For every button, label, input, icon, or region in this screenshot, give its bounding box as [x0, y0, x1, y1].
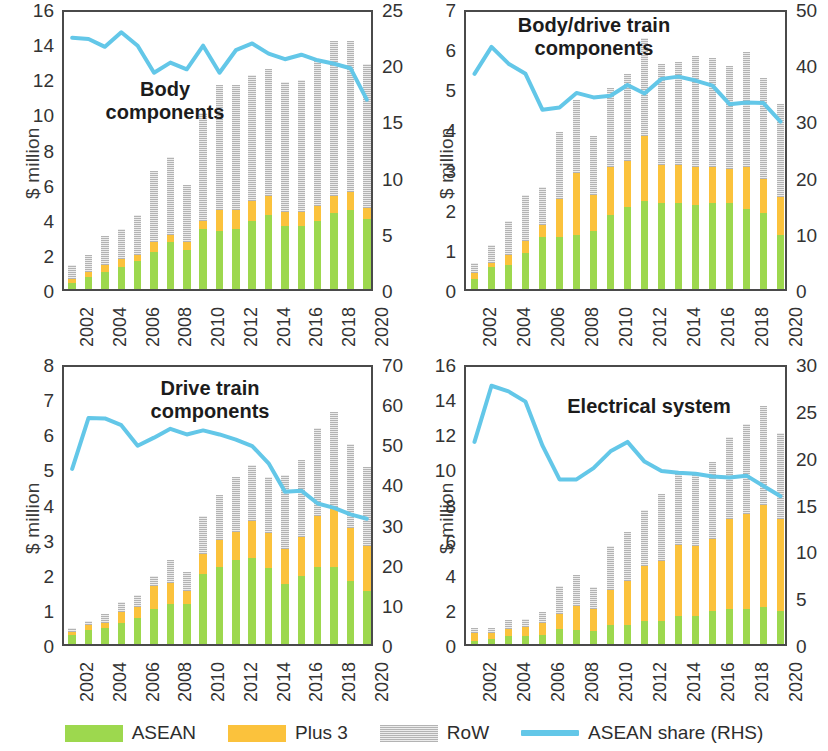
y-tick-label: 6 [0, 426, 54, 445]
line-series-layer [64, 12, 375, 293]
x-tick-label: 2016 [719, 662, 737, 702]
legend-color-swatch-plus3 [228, 725, 286, 742]
x-tick-label: 2012 [242, 307, 260, 347]
y2-tick-label: 15 [382, 113, 403, 132]
x-tick-label: 2018 [753, 662, 771, 702]
y-tick-label: 8 [0, 356, 54, 375]
figure-root: $ million0246810121416051015202520022004… [0, 0, 828, 751]
legend-item-asean[interactable]: ASEAN [65, 722, 196, 744]
y2-tick-label: 20 [796, 169, 817, 188]
y2-tick-label: 60 [382, 396, 403, 415]
x-tick-label: 2006 [549, 307, 567, 347]
y2-tick-label: 10 [382, 169, 403, 188]
y-tick-label: 6 [414, 41, 456, 60]
y-tick-label: 0 [0, 637, 54, 656]
y-tick-label: 16 [414, 356, 456, 375]
y-tick-label: 3 [414, 161, 456, 180]
y-tick-label: 5 [414, 81, 456, 100]
y-tick-label: 10 [0, 106, 54, 125]
y2-tick-label: 25 [382, 1, 403, 20]
x-tick-label: 2010 [209, 307, 227, 347]
y2-tick-label: 30 [796, 356, 817, 375]
x-tick-label: 2016 [307, 307, 325, 347]
chart-title: Body/drive train components [479, 14, 709, 60]
y-tick-label: 2 [414, 601, 456, 620]
y-tick-label: 1 [0, 601, 54, 620]
y2-tick-label: 40 [382, 476, 403, 495]
y2-tick-label: 30 [382, 516, 403, 535]
y-tick-label: 0 [414, 282, 456, 301]
y-tick-label: 6 [414, 531, 456, 550]
y-tick-label: 2 [414, 201, 456, 220]
legend-item-line[interactable]: ASEAN share (RHS) [521, 722, 763, 744]
chart-title: Electrical system [534, 395, 764, 418]
y-tick-label: 5 [0, 461, 54, 480]
legend-color-swatch-row [380, 725, 438, 742]
y-tick-label: 7 [0, 391, 54, 410]
legend-item-row[interactable]: RoW [380, 722, 489, 744]
x-tick-label: 2008 [583, 662, 601, 702]
x-tick-label: 2006 [144, 662, 162, 702]
y2-tick-label: 0 [382, 282, 393, 301]
y-tick-label: 2 [0, 566, 54, 585]
x-tick-label: 2014 [275, 307, 293, 347]
y-tick-label: 1 [414, 241, 456, 260]
y-tick-label: 4 [414, 566, 456, 585]
x-tick-label: 2010 [617, 662, 635, 702]
y2-tick-label: 15 [796, 496, 817, 515]
y-tick-label: 8 [0, 141, 54, 160]
y2-tick-label: 0 [382, 637, 393, 656]
x-tick-label: 2020 [787, 307, 805, 347]
y2-tick-label: 20 [796, 449, 817, 468]
y-tick-label: 4 [0, 496, 54, 515]
x-tick-label: 2014 [685, 307, 703, 347]
chart-panel-body-drive-train-components: $ million0123456701020304050200220042006… [414, 0, 828, 396]
x-tick-label: 2014 [685, 662, 703, 702]
x-tick-label: 2018 [753, 307, 771, 347]
legend-label: ASEAN [132, 722, 196, 744]
y-tick-label: 4 [414, 121, 456, 140]
y-tick-label: 12 [0, 71, 54, 90]
x-tick-label: 2004 [111, 307, 129, 347]
x-tick-label: 2020 [373, 307, 391, 347]
y-tick-label: 6 [0, 176, 54, 195]
chart-title: Body components [75, 78, 255, 124]
x-tick-label: 2002 [78, 662, 96, 702]
y2-tick-label: 5 [382, 225, 393, 244]
x-tick-label: 2020 [373, 662, 391, 702]
x-tick-label: 2002 [481, 307, 499, 347]
y2-tick-label: 5 [796, 590, 807, 609]
y2-tick-label: 10 [796, 543, 817, 562]
x-tick-label: 2018 [340, 662, 358, 702]
x-tick-label: 2004 [515, 307, 533, 347]
chart-panel-electrical-system: $ million0246810121416051015202530200220… [414, 355, 828, 751]
y-tick-label: 0 [414, 637, 456, 656]
y2-tick-label: 0 [796, 637, 807, 656]
x-tick-label: 2004 [515, 662, 533, 702]
x-tick-label: 2012 [242, 662, 260, 702]
legend-item-plus3[interactable]: Plus 3 [228, 722, 348, 744]
y2-tick-label: 20 [382, 556, 403, 575]
x-tick-label: 2016 [307, 662, 325, 702]
x-tick-label: 2018 [340, 307, 358, 347]
y-tick-label: 0 [0, 282, 54, 301]
y-tick-label: 14 [414, 391, 456, 410]
x-tick-label: 2006 [549, 662, 567, 702]
y-tick-label: 10 [414, 461, 456, 480]
y2-tick-label: 10 [382, 596, 403, 615]
y-tick-label: 8 [414, 496, 456, 515]
legend-line-swatch-line [521, 730, 579, 736]
y-tick-label: 16 [0, 1, 54, 20]
x-tick-label: 2004 [111, 662, 129, 702]
y2-tick-label: 50 [796, 1, 817, 20]
figure-legend: ASEANPlus 3RoWASEAN share (RHS) [0, 715, 828, 751]
x-tick-label: 2012 [651, 307, 669, 347]
y-tick-label: 7 [414, 1, 456, 20]
y-tick-label: 12 [414, 426, 456, 445]
legend-label: RoW [447, 722, 489, 744]
y2-tick-label: 40 [796, 57, 817, 76]
y2-tick-label: 10 [796, 225, 817, 244]
x-tick-label: 2002 [481, 662, 499, 702]
y2-tick-label: 50 [382, 436, 403, 455]
y2-tick-label: 70 [382, 356, 403, 375]
